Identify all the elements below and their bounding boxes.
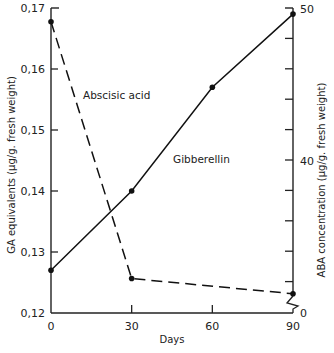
data-point <box>129 188 135 194</box>
left-tick-label: 0,16 <box>21 63 46 76</box>
series-label-abscisic-acid: Abscisic acid <box>83 89 150 101</box>
x-axis-title: Days <box>160 334 185 345</box>
data-point <box>129 276 135 282</box>
x-tick-label: 30 <box>125 320 139 333</box>
data-point <box>48 19 54 25</box>
dual-axis-line-chart: 0,120,130,140,150,160,17030609050400Days… <box>0 0 334 353</box>
labels-layer: 0,120,130,140,150,160,17030609050400Days… <box>6 2 327 345</box>
series-label-gibberellin: Gibberellin <box>173 153 230 165</box>
right-tick-label: 50 <box>300 3 314 16</box>
left-tick-label: 0,12 <box>21 307 46 320</box>
left-tick-label: 0,14 <box>21 185 46 198</box>
right-tick-label: 40 <box>300 155 314 168</box>
series-layer <box>48 11 296 296</box>
left-axis-title: GA equivalents (μg/g. fresh weight) <box>6 76 17 254</box>
data-point <box>290 11 296 17</box>
right-axis-title: ABA concentration (μg/g. fresh weight) <box>316 83 327 278</box>
right-tick-label: 0 <box>300 307 307 320</box>
data-point <box>210 85 216 91</box>
left-tick-label: 0,15 <box>21 124 46 137</box>
left-tick-label: 0,13 <box>21 246 46 259</box>
left-tick-label: 0,17 <box>21 2 46 15</box>
x-tick-label: 90 <box>286 320 300 333</box>
x-tick-label: 0 <box>48 320 55 333</box>
axis-break-icon <box>287 296 298 313</box>
data-point <box>290 291 296 297</box>
data-point <box>48 268 54 274</box>
series-line-gibberellin <box>51 14 293 270</box>
series-line-abscisic-acid <box>51 22 293 294</box>
x-tick-label: 60 <box>205 320 219 333</box>
